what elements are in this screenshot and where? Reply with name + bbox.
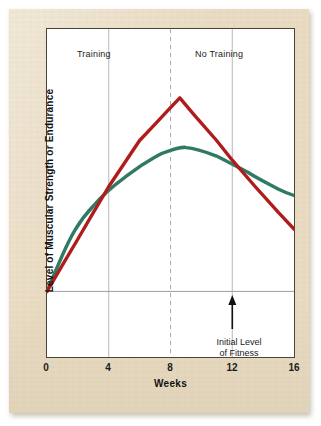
plot-panel: Training No Training Initial Level of Fi… — [46, 28, 295, 358]
callout-line-2: of Fitness — [184, 348, 294, 359]
y-axis-title: Level of Muscular Strength or Endurance — [44, 66, 55, 316]
phase-label-no-training: No Training — [195, 49, 243, 59]
xtick-label-8: 8 — [159, 362, 181, 373]
figure-container: Training No Training Initial Level of Fi… — [0, 0, 321, 426]
phase-label-training: Training — [77, 49, 111, 59]
xtick-label-0: 0 — [35, 362, 57, 373]
xtick-label-12: 12 — [221, 362, 243, 373]
xtick-label-4: 4 — [97, 362, 119, 373]
plot-svg — [47, 29, 294, 357]
initial-level-callout: Initial Level of Fitness — [184, 337, 294, 359]
xtick-label-16: 16 — [283, 362, 305, 373]
x-axis-title: Weeks — [46, 378, 295, 389]
callout-line-1: Initial Level — [184, 337, 294, 348]
initial-level-arrow — [228, 295, 236, 329]
